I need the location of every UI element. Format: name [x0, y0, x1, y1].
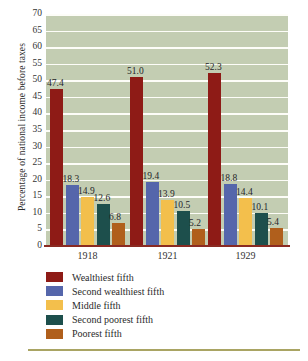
- y-tick-label: 40: [16, 108, 42, 118]
- y-tick-label: 30: [16, 142, 42, 152]
- y-tick-label: 25: [16, 158, 42, 168]
- bar-value-label: 18.8: [221, 173, 238, 183]
- bar-value-label: 10.5: [174, 200, 191, 210]
- legend-label: Middle fifth: [72, 300, 121, 311]
- plot-area: 47.418.314.912.66.851.019.413.910.55.252…: [46, 14, 288, 246]
- y-tick-label: 65: [16, 26, 42, 36]
- footer-divider: [28, 349, 300, 351]
- legend-item[interactable]: Wealthiest fifth: [46, 270, 286, 284]
- legend-item[interactable]: Second wealthiest fifth: [46, 284, 286, 298]
- x-axis-line: [44, 245, 290, 247]
- bar[interactable]: [270, 228, 283, 246]
- bar[interactable]: [66, 185, 79, 246]
- bar-value-label: 52.3: [205, 62, 222, 72]
- bar[interactable]: [177, 211, 190, 246]
- bar[interactable]: [208, 73, 221, 246]
- bar-value-label: 18.3: [63, 174, 80, 184]
- legend-label: Second wealthiest fifth: [72, 286, 164, 297]
- y-tick-label: 60: [16, 42, 42, 52]
- y-tick-label: 35: [16, 125, 42, 135]
- y-tick-label: 5: [16, 224, 42, 234]
- bar[interactable]: [50, 89, 63, 246]
- bar[interactable]: [97, 204, 110, 246]
- bar-group: 52.318.814.410.15.4: [208, 14, 283, 246]
- chart-legend: Wealthiest fifthSecond wealthiest fifthM…: [46, 270, 286, 341]
- y-axis-tick-labels: 7065605550454035302520151050: [16, 14, 42, 246]
- legend-swatch: [46, 329, 63, 339]
- legend-swatch: [46, 315, 63, 325]
- y-tick-label: 55: [16, 59, 42, 69]
- income-distribution-bar-chart: Percentage of national income before tax…: [0, 0, 308, 361]
- legend-item[interactable]: Second poorest fifth: [46, 313, 286, 327]
- y-tick-label: 50: [16, 75, 42, 85]
- bar[interactable]: [239, 198, 252, 246]
- legend-item[interactable]: Middle fifth: [46, 298, 286, 312]
- x-tick-label: 1921: [138, 250, 198, 261]
- bar[interactable]: [255, 213, 268, 246]
- bar-value-label: 19.4: [143, 171, 160, 181]
- bar-value-label: 12.6: [94, 193, 111, 203]
- y-tick-label: 10: [16, 208, 42, 218]
- bar-value-label: 5.2: [189, 218, 201, 228]
- bar-value-label: 47.4: [47, 78, 64, 88]
- bar-group: 47.418.314.912.66.8: [50, 14, 125, 246]
- bar[interactable]: [81, 197, 94, 246]
- legend-label: Second poorest fifth: [72, 314, 153, 325]
- bar[interactable]: [146, 182, 159, 246]
- bar[interactable]: [112, 223, 125, 246]
- y-tick-label: 45: [16, 92, 42, 102]
- y-tick-label: 70: [16, 9, 42, 19]
- bar-value-label: 6.8: [109, 212, 121, 222]
- bar-value-label: 5.4: [267, 217, 279, 227]
- x-tick-label: 1918: [58, 250, 118, 261]
- bar-value-label: 10.1: [252, 202, 269, 212]
- bar[interactable]: [161, 200, 174, 246]
- legend-label: Poorest fifth: [72, 328, 122, 339]
- legend-swatch: [46, 272, 63, 282]
- legend-swatch: [46, 300, 63, 310]
- x-tick-label: 1929: [216, 250, 276, 261]
- bar-value-label: 13.9: [158, 189, 175, 199]
- y-tick-label: 15: [16, 191, 42, 201]
- bar[interactable]: [192, 229, 205, 246]
- legend-swatch: [46, 286, 63, 296]
- legend-item[interactable]: Poorest fifth: [46, 327, 286, 341]
- y-tick-label: 20: [16, 175, 42, 185]
- bar-value-label: 14.4: [236, 187, 253, 197]
- legend-label: Wealthiest fifth: [72, 272, 134, 283]
- bar[interactable]: [130, 77, 143, 246]
- bar-value-label: 14.9: [78, 186, 95, 196]
- bar-value-label: 51.0: [127, 66, 144, 76]
- bar[interactable]: [224, 184, 237, 246]
- bar-group: 51.019.413.910.55.2: [130, 14, 205, 246]
- y-tick-label: 0: [16, 241, 42, 251]
